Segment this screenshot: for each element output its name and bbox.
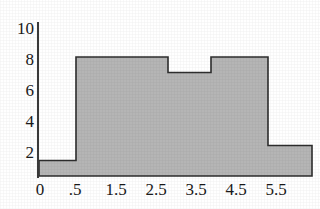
y-axis-tick-labels: 10 8 6 4 2 (0, 0, 34, 209)
plot-area (0, 0, 320, 209)
y-tick-label-6: 6 (4, 82, 34, 99)
x-tick-label-3point5: 3.5 (185, 180, 206, 200)
x-tick-label-4point5: 4.5 (225, 180, 246, 200)
x-tick-label-0point5: .5 (69, 180, 82, 200)
histogram-outline-path (39, 57, 312, 176)
x-tick-label-5point5: 5.5 (265, 180, 286, 200)
x-tick-label-2point5: 2.5 (145, 180, 166, 200)
x-tick-label-1point5: 1.5 (105, 180, 126, 200)
y-tick-label-4: 4 (4, 113, 34, 130)
x-axis-tick-labels: 0 .5 1.5 2.5 3.5 4.5 5.5 (0, 180, 320, 208)
histogram-chart: 10 8 6 4 2 0 .5 1.5 2.5 3.5 4.5 5.5 (0, 0, 320, 209)
histogram-shape (0, 0, 320, 209)
y-tick-label-8: 8 (4, 51, 34, 68)
y-tick-label-10: 10 (4, 20, 34, 37)
x-tick-label-0: 0 (36, 180, 45, 200)
y-tick-label-2: 2 (4, 144, 34, 161)
y-axis-line (37, 22, 39, 178)
